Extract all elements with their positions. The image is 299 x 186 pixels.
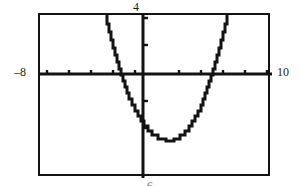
plot-frame [38,13,270,176]
plot-canvas [40,15,272,178]
axis-label-right: 10 [277,66,289,78]
y-axis [143,15,148,178]
parabola-curve [107,15,227,141]
axis-label-bottom: –6 [141,180,153,186]
axis-label-top: 4 [133,1,139,13]
graph-screenshot: 4 –8 10 –6 [0,0,299,186]
axis-label-left: –8 [14,66,26,78]
x-axis [40,70,272,74]
